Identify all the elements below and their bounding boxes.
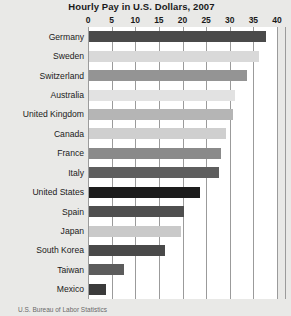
bar-row: [89, 70, 278, 81]
bar: [89, 109, 233, 120]
bar-row: [89, 31, 278, 42]
x-tick-label: 20: [178, 14, 187, 26]
gridline: [277, 27, 278, 299]
x-axis-tick-labels: 0510152025303540: [0, 14, 291, 26]
gridline: [253, 27, 254, 299]
category-label: Italy: [0, 168, 84, 178]
bar-row: [89, 51, 278, 62]
category-label: South Korea: [0, 245, 84, 255]
chart-figure: Hourly Pay in U.S. Dollars, 2007 0510152…: [0, 0, 291, 316]
category-label: Japan: [0, 226, 84, 236]
bar-row: [89, 187, 278, 198]
gridline: [112, 27, 113, 299]
x-tick-label: 0: [86, 14, 91, 26]
x-tick-label: 30: [225, 14, 234, 26]
bar: [89, 206, 184, 217]
category-label: Switzerland: [0, 71, 84, 81]
category-label: Spain: [0, 207, 84, 217]
bar-row: [89, 245, 278, 256]
category-label: Canada: [0, 129, 84, 139]
bar-row: [89, 148, 278, 159]
bar-row: [89, 206, 278, 217]
chart-caption: U.S. Bureau of Labor Statistics: [18, 306, 291, 313]
x-tick-label: 15: [154, 14, 163, 26]
bar: [89, 187, 200, 198]
chart-title: Hourly Pay in U.S. Dollars, 2007: [0, 0, 291, 13]
bar: [89, 31, 266, 42]
outer-right-rule: [285, 27, 286, 299]
gridline: [206, 27, 207, 299]
bar-row: [89, 128, 278, 139]
x-tick-label: 40: [272, 14, 281, 26]
x-tick-label: 10: [131, 14, 140, 26]
bar-row: [89, 284, 278, 295]
bar: [89, 70, 247, 81]
x-tick-label: 25: [201, 14, 210, 26]
category-label: Mexico: [0, 284, 84, 294]
bar: [89, 51, 259, 62]
bar: [89, 167, 219, 178]
bar-row: [89, 226, 278, 237]
category-label: France: [0, 148, 84, 158]
gridline: [159, 27, 160, 299]
bar-row: [89, 167, 278, 178]
category-label: Sweden: [0, 51, 84, 61]
gridline: [230, 27, 231, 299]
bar: [89, 148, 221, 159]
category-label: United Kingdom: [0, 109, 84, 119]
bar: [89, 264, 124, 275]
category-label: Germany: [0, 32, 84, 42]
category-label: Australia: [0, 90, 84, 100]
category-label: United States: [0, 187, 84, 197]
bar: [89, 90, 235, 101]
bar-row: [89, 90, 278, 101]
category-label: Taiwan: [0, 265, 84, 275]
gridline: [183, 27, 184, 299]
bar: [89, 284, 106, 295]
gridline: [135, 27, 136, 299]
bar-row: [89, 264, 278, 275]
bar: [89, 128, 226, 139]
x-tick-label: 5: [109, 14, 114, 26]
bar-row: [89, 109, 278, 120]
bar: [89, 226, 181, 237]
plot-area: [88, 27, 278, 299]
bar: [89, 245, 165, 256]
x-tick-label: 35: [249, 14, 258, 26]
